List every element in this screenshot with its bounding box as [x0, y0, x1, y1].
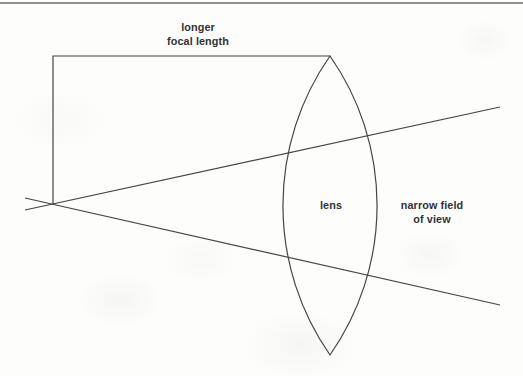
- figure-page: longer focal length lens narrow field of…: [0, 0, 523, 376]
- upper-field-ray-line: [25, 107, 500, 210]
- field-of-view-label: narrow field of view: [401, 199, 463, 226]
- lens-focal-length-diagram: [0, 0, 523, 376]
- lens-label: lens: [320, 199, 342, 213]
- focal-length-label: longer focal length: [167, 21, 229, 48]
- focal-length-bracket-line: [53, 56, 330, 204]
